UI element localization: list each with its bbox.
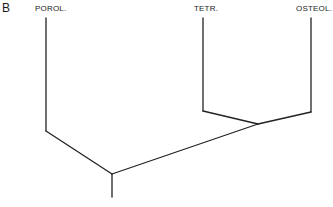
branch-tetr-to-node [203, 111, 258, 124]
branch-node-to-root [112, 124, 258, 174]
cladogram [0, 0, 333, 207]
branch-osteol-to-node [258, 112, 311, 124]
branch-porol-to-root [46, 131, 112, 174]
